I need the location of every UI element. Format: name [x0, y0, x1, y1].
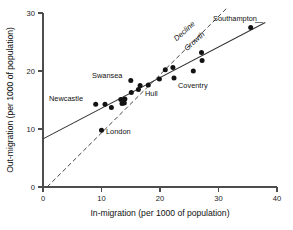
data-point — [157, 77, 162, 82]
data-point — [191, 69, 196, 74]
scatter-plot-canvas: 30 20 10 0 0 10 20 30 40 In-migration (p… — [0, 0, 293, 230]
x-tick-label-10: 10 — [97, 194, 105, 203]
point-label-newcastle: Newcastle — [49, 94, 83, 103]
point-labels-group: Newcastle London Swansea Hull Coventry S… — [49, 14, 263, 136]
data-point — [146, 82, 151, 87]
data-point — [99, 128, 104, 133]
regression-fit-line — [43, 23, 265, 139]
migration-scatter-figure: 30 20 10 0 0 10 20 30 40 In-migration (p… — [0, 0, 293, 230]
x-tick-label-30: 30 — [214, 194, 222, 203]
point-label-coventry: Coventry — [178, 81, 208, 90]
x-tick-label-20: 20 — [156, 194, 164, 203]
y-tick-label-10: 10 — [27, 125, 35, 134]
data-point — [170, 65, 175, 70]
point-label-swansea: Swansea — [92, 71, 123, 80]
y-axis-title: Out-migration (per 1000 of population) — [5, 27, 15, 173]
data-point — [199, 50, 204, 55]
y-tick-label-20: 20 — [27, 67, 35, 76]
data-point — [172, 76, 177, 81]
y-tick-label-0: 0 — [31, 183, 35, 192]
x-tick-label-0: 0 — [41, 194, 45, 203]
point-label-southampton: Southampton — [213, 14, 257, 23]
y-tick-label-30: 30 — [27, 9, 35, 18]
data-point — [138, 83, 143, 88]
data-point — [200, 58, 205, 63]
point-label-hull: Hull — [145, 89, 158, 98]
data-point — [93, 102, 98, 107]
x-tick-label-40: 40 — [273, 194, 281, 203]
y-axis-ticks: 30 20 10 0 — [27, 9, 43, 192]
x-axis-title: In-migration (per 1000 of population) — [90, 208, 229, 218]
data-point — [103, 102, 108, 107]
point-label-london: London — [106, 127, 131, 136]
data-point — [128, 78, 133, 83]
data-point — [109, 105, 114, 110]
data-point — [129, 90, 134, 95]
data-point — [163, 67, 168, 72]
data-point — [122, 96, 127, 101]
x-axis-ticks: 0 10 20 30 40 — [41, 187, 281, 203]
region-annotations-group: Decline Growth — [172, 19, 207, 52]
data-point — [248, 25, 253, 30]
